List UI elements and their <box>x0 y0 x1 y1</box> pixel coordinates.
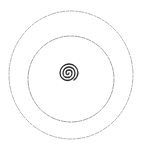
center-spiral <box>60 64 78 81</box>
sketch-canvas <box>0 0 144 149</box>
